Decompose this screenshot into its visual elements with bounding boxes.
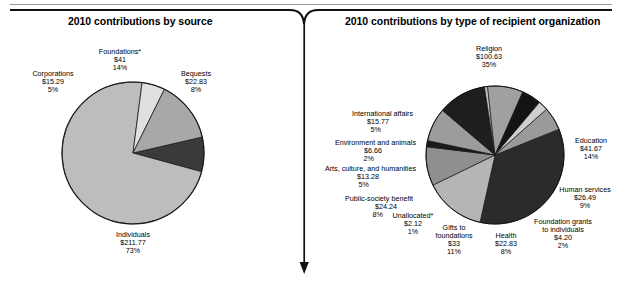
pie-label-foundations: Foundations* $41 14%: [80, 48, 160, 72]
pie-label-religion: Religion $100.63 35%: [453, 45, 525, 69]
pie-label-individuals: Individuals $211.77 73%: [100, 231, 166, 255]
pie-label-human-services: Human services $26.49 9%: [550, 186, 620, 210]
pie-label-bequests: Bequests $22.83 8%: [165, 70, 227, 94]
pie-chart-by-recipient: [420, 82, 570, 230]
panel-contributions-by-recipient: 2010 contributions by type of recipient …: [303, 0, 620, 283]
panel-contributions-by-source: 2010 contributions by source Foundations…: [0, 0, 303, 283]
pie-label-international-affairs: International affairs $15.77 5%: [323, 110, 413, 134]
page-title-left: 2010 contributions by source: [68, 15, 212, 27]
page-title-right: 2010 contributions by type of recipient …: [345, 15, 600, 27]
pie-label-corporations: Corporations $15.29 5%: [18, 70, 88, 94]
pie-label-foundation-grants-to-individuals: Foundation grants to individuals $4.20 2…: [525, 218, 601, 250]
pie-label-public-society-benefit: Public-society benefit $24.24 8%: [303, 195, 413, 219]
pie-chart-by-source: [57, 77, 209, 229]
pie-label-education: Education $41.67 14%: [563, 137, 619, 161]
pie-label-environment-and-animals: Environment and animals $6.66 2%: [309, 139, 416, 163]
pie-label-health: Health $22.83 8%: [484, 232, 528, 256]
figure-root: 2010 contributions by source Foundations…: [0, 0, 620, 283]
pie-label-arts-culture-humanities: Arts, culture, and humanities $13.28 5%: [296, 165, 416, 189]
